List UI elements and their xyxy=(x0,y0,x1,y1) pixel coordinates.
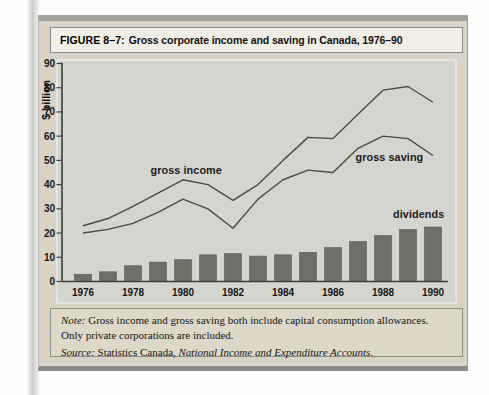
y-tick-label: 40 xyxy=(44,179,56,190)
figure-title: Gross corporate income and saving in Can… xyxy=(129,34,403,46)
x-tick-label: 1984 xyxy=(272,287,295,298)
dividends-bar xyxy=(300,252,317,281)
x-tick-label: 1982 xyxy=(222,287,245,298)
dividends-bar xyxy=(400,229,417,281)
gross-saving-label: gross saving xyxy=(356,151,424,163)
dividends-bar xyxy=(350,242,367,282)
dividends-bar xyxy=(425,227,442,282)
dividends-bar xyxy=(375,235,392,281)
source-text: Statistics Canada, xyxy=(95,346,179,358)
source-period: . xyxy=(370,346,373,358)
y-tick-label: 30 xyxy=(44,203,56,214)
x-tick-label: 1986 xyxy=(322,287,345,298)
dividends-bar xyxy=(200,255,217,282)
chart-canvas: 0102030405060708090197619781980198219841… xyxy=(44,60,456,303)
dividends-bar xyxy=(75,274,92,281)
x-tick-label: 1980 xyxy=(172,287,195,298)
figure-number-label: FIGURE 8–7: xyxy=(60,34,125,46)
source-paragraph: Source: Statistics Canada, National Inco… xyxy=(61,345,452,360)
dividends-bar xyxy=(100,272,117,282)
source-title: National Income and Expenditure Accounts xyxy=(179,346,371,358)
x-tick-label: 1976 xyxy=(72,287,95,298)
figure-box: FIGURE 8–7: Gross corporate income and s… xyxy=(38,15,468,371)
x-tick-label: 1978 xyxy=(122,287,145,298)
dividends-label: dividends xyxy=(393,208,444,220)
note-paragraph: Note: Gross income and gross saving both… xyxy=(61,313,452,342)
y-tick-label: 10 xyxy=(44,252,56,263)
note-label: Note: xyxy=(61,314,85,326)
dividends-bar xyxy=(175,260,192,282)
note-box: Note: Gross income and gross saving both… xyxy=(50,308,463,357)
note-text: Gross income and gross saving both inclu… xyxy=(61,314,429,341)
x-tick-label: 1990 xyxy=(422,287,445,298)
y-tick-label: 80 xyxy=(44,82,56,93)
x-tick-label: 1988 xyxy=(372,287,395,298)
dividends-bar xyxy=(250,256,267,281)
y-tick-label: 20 xyxy=(44,228,56,239)
figure-title-bar: FIGURE 8–7: Gross corporate income and s… xyxy=(50,27,463,53)
dividends-bar xyxy=(150,262,167,281)
y-tick-label: 60 xyxy=(44,131,56,142)
dividends-bar xyxy=(125,266,142,282)
dividends-bar xyxy=(325,248,342,282)
gross-income-label: gross income xyxy=(151,164,222,176)
y-tick-label: 90 xyxy=(44,58,56,69)
page: { "figure": { "label": "FIGURE 8–7:", "t… xyxy=(0,0,489,395)
dividends-bar xyxy=(225,254,242,282)
source-label: Source: xyxy=(61,346,95,358)
dividends-bar xyxy=(275,255,292,282)
y-tick-label: 70 xyxy=(44,106,56,117)
y-tick-label: 0 xyxy=(49,276,55,287)
y-tick-label: 50 xyxy=(44,155,56,166)
